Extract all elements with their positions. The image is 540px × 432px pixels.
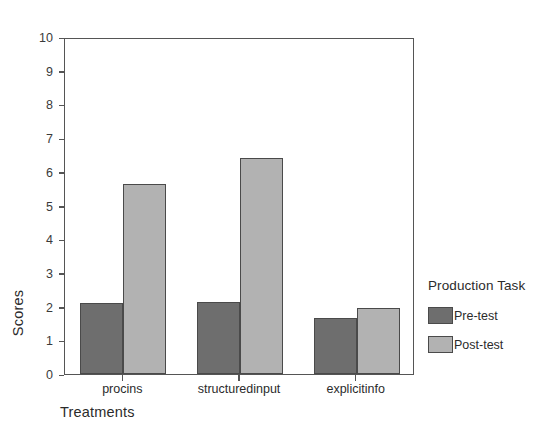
- y-axis-tick-label: 5: [13, 199, 53, 215]
- plot-area: [64, 38, 414, 375]
- legend-swatch-icon: [428, 307, 453, 324]
- bar-procins-pre-test[interactable]: [80, 303, 123, 374]
- bar-explicitinfo-post-test[interactable]: [357, 308, 400, 374]
- y-axis-title: Scores: [10, 273, 26, 353]
- y-axis-tick-label: 4: [13, 232, 53, 248]
- bar-procins-post-test[interactable]: [123, 184, 166, 374]
- y-axis-tick-label: 7: [13, 131, 53, 147]
- legend-item-post-test[interactable]: Post-test: [428, 336, 540, 353]
- legend-swatch-icon: [428, 336, 453, 353]
- y-axis-tick-label: 9: [13, 64, 53, 80]
- legend-title: Production Task: [428, 278, 540, 293]
- y-axis-tick-label: 6: [13, 165, 53, 181]
- y-axis-tick-label: 8: [13, 97, 53, 113]
- x-axis-tick-label: explicitinfo: [286, 382, 426, 396]
- y-axis-tick-label: 0: [13, 367, 53, 383]
- x-axis-title: Treatments: [60, 404, 135, 420]
- bar-structuredinput-pre-test[interactable]: [197, 302, 240, 374]
- x-axis-tick-mark: [238, 375, 240, 381]
- x-axis: procinsstructuredinputexplicitinfo: [64, 375, 414, 399]
- x-axis-tick-mark: [355, 375, 357, 381]
- legend-item-pre-test[interactable]: Pre-test: [428, 307, 540, 324]
- y-axis-tick-label: 10: [13, 30, 53, 46]
- legend-entries: Pre-testPost-test: [428, 307, 540, 353]
- bar-structuredinput-post-test[interactable]: [240, 158, 283, 374]
- legend-item-label: Post-test: [454, 338, 503, 352]
- legend-item-label: Pre-test: [454, 309, 498, 323]
- x-axis-tick-mark: [122, 375, 124, 381]
- legend: Production Task Pre-testPost-test: [428, 278, 540, 365]
- bar-explicitinfo-pre-test[interactable]: [314, 318, 357, 374]
